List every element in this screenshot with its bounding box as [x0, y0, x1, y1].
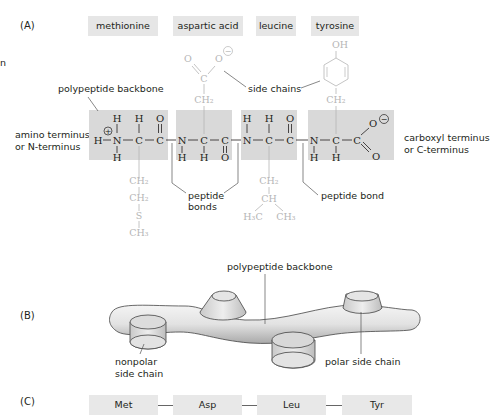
- svg-text:O: O: [221, 152, 229, 163]
- svg-text:O: O: [286, 113, 294, 124]
- svg-text:CH₂: CH₂: [326, 94, 346, 105]
- side-chain-nonpolar-1: [130, 315, 166, 354]
- svg-text:N: N: [243, 135, 252, 146]
- svg-text:O: O: [372, 151, 380, 162]
- sequence-residue-met: Met: [89, 395, 158, 415]
- svg-text:H₃C: H₃C: [243, 211, 262, 222]
- svg-text:+: +: [105, 127, 112, 136]
- svg-text:H: H: [178, 152, 187, 163]
- svg-text:CH₂: CH₂: [194, 94, 214, 105]
- sequence-residue-leu: Leu: [257, 395, 326, 415]
- svg-text:C: C: [200, 73, 207, 84]
- svg-text:C: C: [135, 135, 143, 146]
- svg-text:H: H: [113, 152, 122, 163]
- svg-text:H: H: [243, 113, 252, 124]
- svg-text:CH: CH: [261, 193, 277, 204]
- sequence-residue-tyr: Tyr: [342, 395, 412, 415]
- svg-text:H: H: [200, 152, 209, 163]
- svg-text:H: H: [94, 135, 103, 146]
- svg-text:C: C: [353, 135, 361, 146]
- side-chain-2: [200, 291, 246, 320]
- svg-text:OH: OH: [332, 39, 348, 50]
- svg-text:O: O: [215, 53, 223, 64]
- svg-text:N: N: [113, 135, 122, 146]
- side-chain-3: [272, 332, 315, 368]
- svg-text:CH₂: CH₂: [129, 192, 149, 203]
- svg-text:S: S: [136, 210, 143, 221]
- svg-text:CH₂: CH₂: [129, 175, 149, 186]
- svg-text:H: H: [310, 152, 319, 163]
- svg-text:C: C: [200, 135, 208, 146]
- sequence-link-3: [326, 405, 342, 406]
- sequence-link-1: [158, 405, 173, 406]
- peptide-structure-diagram: H N H H + C H C O N H C H C O N H: [0, 0, 489, 260]
- svg-text:CH₂: CH₂: [259, 175, 279, 186]
- svg-text:C: C: [332, 135, 340, 146]
- panel-c-label: (C): [20, 396, 35, 407]
- svg-text:CH₃: CH₃: [276, 211, 296, 222]
- svg-text:O: O: [184, 53, 192, 64]
- svg-text:CH₃: CH₃: [129, 227, 149, 238]
- svg-text:−: −: [381, 115, 388, 124]
- svg-text:N: N: [178, 135, 187, 146]
- svg-text:H: H: [135, 113, 144, 124]
- svg-text:C: C: [265, 135, 273, 146]
- sequence-link-2: [242, 405, 257, 406]
- svg-text:H: H: [332, 152, 341, 163]
- backbone-leader: [88, 97, 98, 111]
- sequence-residue-asp: Asp: [173, 395, 242, 415]
- side-chain-leader-1: [224, 71, 246, 87]
- svg-text:−: −: [225, 47, 232, 56]
- svg-text:O: O: [369, 118, 377, 129]
- svg-text:C: C: [286, 135, 294, 146]
- svg-text:O: O: [156, 113, 164, 124]
- svg-text:H: H: [265, 113, 274, 124]
- polypeptide-3d-model: [0, 250, 489, 370]
- svg-text:N: N: [310, 135, 319, 146]
- svg-text:C: C: [221, 135, 229, 146]
- svg-text:H: H: [113, 113, 122, 124]
- svg-text:C: C: [156, 135, 164, 146]
- side-chain-leader-2: [301, 81, 320, 88]
